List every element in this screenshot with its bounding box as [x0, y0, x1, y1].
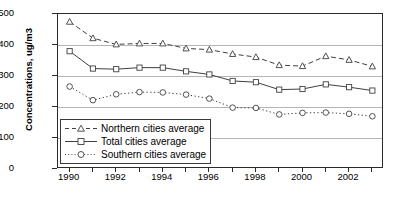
y-tick-label: 500	[0, 8, 14, 18]
data-point-marker	[114, 67, 119, 72]
data-point-marker	[253, 54, 259, 60]
data-point-marker	[183, 92, 189, 98]
y-tick-mark	[52, 168, 57, 169]
data-point-marker	[67, 18, 73, 24]
data-point-marker	[276, 62, 282, 68]
data-point-marker	[277, 87, 282, 92]
data-point-marker	[253, 105, 259, 111]
data-point-marker	[90, 66, 95, 71]
y-tick-label: 200	[0, 101, 14, 111]
data-point-marker	[253, 80, 258, 85]
data-point-marker	[160, 90, 166, 96]
series-square	[67, 49, 375, 94]
x-tick-label: 2002	[328, 172, 368, 182]
y-tick-label: 400	[0, 39, 14, 49]
x-tick-label: 2000	[282, 172, 322, 182]
y-tick-label: 100	[0, 132, 14, 142]
x-tick-label: 1992	[95, 172, 135, 182]
data-point-marker	[276, 112, 282, 118]
data-point-marker	[90, 97, 96, 103]
data-point-marker	[346, 85, 351, 90]
data-point-marker	[160, 65, 165, 70]
legend-label-northern: Northern cities average	[101, 122, 204, 135]
x-tick-label: 1996	[188, 172, 228, 182]
data-point-marker	[137, 89, 143, 95]
legend-label-total: Total cities average	[101, 135, 187, 148]
data-point-marker	[300, 86, 305, 91]
x-tick-label: 1998	[235, 172, 275, 182]
legend-item-southern: Southern cities average	[64, 148, 206, 161]
x-tick-label: 1994	[142, 172, 182, 182]
data-point-marker	[67, 84, 73, 90]
data-point-marker	[90, 35, 96, 41]
data-point-marker	[323, 82, 328, 87]
data-point-marker	[346, 111, 352, 117]
data-point-marker	[230, 78, 235, 83]
data-point-marker	[230, 105, 236, 111]
data-point-marker	[137, 65, 142, 70]
data-point-marker	[323, 110, 329, 116]
data-point-marker	[67, 49, 72, 54]
legend-swatch-dashed-triangle	[64, 122, 98, 135]
data-point-marker	[300, 110, 306, 116]
series-circle	[67, 84, 375, 119]
legend-label-southern: Southern cities average	[101, 148, 206, 161]
legend-swatch-dotted-circle	[64, 148, 98, 161]
series-triangle	[67, 18, 376, 68]
x-tick-label: 1990	[49, 172, 89, 182]
legend-item-northern: Northern cities average	[64, 122, 206, 135]
data-point-marker	[370, 114, 376, 120]
data-point-marker	[183, 69, 188, 74]
legend-swatch-solid-square	[64, 135, 98, 148]
data-point-marker	[323, 53, 329, 59]
data-point-marker	[230, 51, 236, 57]
line-chart: Concentrations, ug/m3 0100200300400500 1…	[0, 0, 399, 204]
data-point-marker	[207, 96, 213, 102]
legend-item-total: Total cities average	[64, 135, 206, 148]
data-point-marker	[113, 91, 119, 97]
data-point-marker	[370, 88, 375, 93]
data-point-marker	[136, 40, 142, 46]
y-tick-label: 0	[0, 163, 14, 173]
chart-legend: Northern cities average Total cities ave…	[60, 119, 211, 164]
y-tick-label: 300	[0, 70, 14, 80]
y-axis-title: Concentrations, ug/m3	[23, 5, 34, 155]
data-point-marker	[207, 72, 212, 77]
